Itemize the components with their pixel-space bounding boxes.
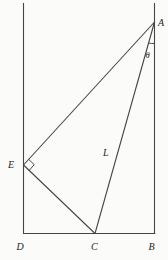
label-point-C: C [91, 241, 98, 252]
geometry-diagram: A θ L E D C B [0, 0, 168, 260]
label-point-D: D [16, 241, 25, 252]
label-segment-L: L [102, 147, 109, 158]
label-point-B: B [149, 241, 155, 252]
diagram-canvas: A θ L E D C B [0, 0, 168, 260]
label-point-E: E [7, 159, 14, 170]
label-point-A: A [157, 17, 165, 28]
angle-theta-arc [149, 43, 155, 44]
right-angle-marker [29, 159, 35, 170]
label-angle-theta: θ [146, 50, 150, 60]
segment-EC [24, 165, 96, 234]
